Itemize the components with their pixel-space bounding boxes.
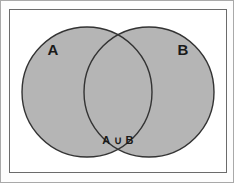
set-a-label: A [48, 41, 59, 58]
venn-diagram-canvas: A B A ∪ B [1, 1, 234, 183]
set-b-label: B [178, 41, 189, 58]
union-label: A ∪ B [102, 134, 134, 146]
venn-diagram-figure: A B A ∪ B [0, 0, 234, 183]
